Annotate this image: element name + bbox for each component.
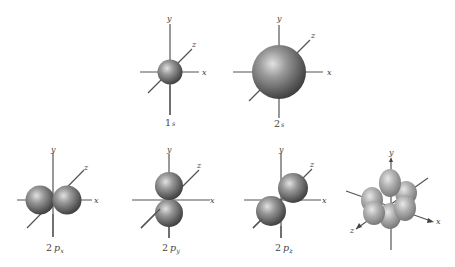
- p-lobe-front: [256, 196, 286, 226]
- p-lobe-right: [53, 186, 82, 215]
- orbital-2px: y z x 2px: [17, 145, 99, 255]
- orbital-2py: y z x 2py: [132, 145, 215, 255]
- orbital-label-1s: 1s: [165, 117, 176, 128]
- orbital-label-2s: 2s: [274, 118, 285, 129]
- x-axis-label: x: [436, 217, 441, 226]
- y-arrow-icon: [389, 157, 393, 162]
- z-axis-label: z: [349, 226, 355, 235]
- x-axis-label: x: [202, 68, 207, 77]
- orbital-diagram: y z x 1s y z x 2s y z x 2px y z: [0, 0, 455, 267]
- y-axis-label: y: [166, 14, 172, 23]
- orbital-label-2pz: 2pz: [275, 242, 293, 255]
- x-axis-label: x: [210, 196, 215, 205]
- orbital-label-2px: 2px: [46, 242, 64, 255]
- orbital-d: y x z: [346, 148, 441, 250]
- x-axis-label: x: [322, 196, 327, 205]
- y-axis-label: y: [278, 145, 284, 154]
- z-axis-label: z: [309, 160, 315, 169]
- z-axis-label: z: [83, 163, 89, 172]
- orbital-label-2py: 2py: [162, 242, 180, 255]
- s-sphere: [158, 60, 183, 85]
- z-axis-label: z: [191, 40, 197, 49]
- z-arrow-icon: [356, 223, 362, 229]
- orbital-1s: y z x 1s: [140, 14, 207, 128]
- x-arrow-icon: [427, 218, 434, 223]
- y-axis-label: y: [276, 14, 282, 23]
- p-lobe-bottom: [155, 199, 183, 227]
- orbital-2s: y z x 2s: [233, 14, 332, 129]
- orbital-2pz: y z x 2pz: [244, 145, 327, 255]
- d-lobe: [394, 195, 416, 221]
- d-lobe: [379, 169, 401, 197]
- z-axis-label: z: [196, 161, 202, 170]
- p-lobe-left: [26, 186, 55, 215]
- p-lobe-back: [278, 173, 308, 203]
- x-axis-label: x: [94, 196, 99, 205]
- s-sphere: [252, 45, 306, 99]
- y-axis-label: y: [166, 145, 172, 154]
- z-axis-label: z: [310, 31, 316, 40]
- y-axis-label: y: [50, 145, 56, 154]
- x-axis-label: x: [327, 68, 332, 77]
- p-lobe-top: [155, 172, 183, 200]
- y-axis-label: y: [388, 148, 394, 157]
- d-lobe: [363, 201, 385, 225]
